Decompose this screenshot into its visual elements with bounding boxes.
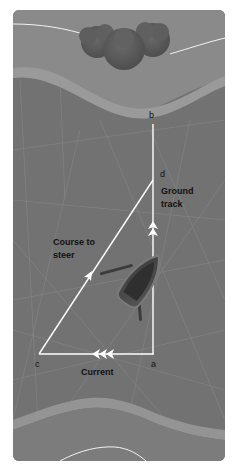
- point-d-label: d: [160, 168, 165, 180]
- current-label: Current: [81, 366, 114, 378]
- point-b-label: b: [149, 109, 154, 121]
- ground-track-label-line1: Ground: [161, 185, 194, 197]
- course-to-steer-label-line2: steer: [53, 249, 75, 261]
- ground-track-label-line2: track: [161, 198, 183, 210]
- course-to-steer-diagram: [0, 0, 238, 471]
- point-c-label: c: [35, 358, 40, 370]
- point-a-label: a: [151, 358, 156, 370]
- course-to-steer-label-line1: Course to: [53, 236, 95, 248]
